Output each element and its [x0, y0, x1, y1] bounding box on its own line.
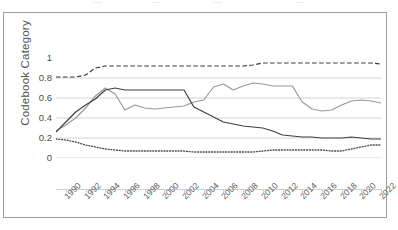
x-tick-label: 2022 [377, 180, 398, 201]
x-tick-label: 1998 [141, 180, 162, 201]
legend-swatch-1 [93, 2, 102, 3]
y-tick-label: 0.8 [32, 73, 52, 83]
y-tick-label: 0.4 [32, 113, 52, 123]
y-tick-label: 1 [32, 53, 52, 63]
legend-swatch-4 [296, 2, 305, 3]
x-tick-label: 2004 [200, 180, 221, 201]
x-tick-label: 1992 [82, 180, 103, 201]
x-tick-label: 2010 [259, 180, 280, 201]
plot-area [56, 58, 381, 158]
x-tick-label: 2012 [279, 180, 300, 201]
y-tick-label: 0.6 [32, 93, 52, 103]
y-axis-tick-labels: 10.80.60.40.20 [30, 58, 52, 158]
y-tick-label: 0.2 [32, 133, 52, 143]
series-layer [56, 63, 381, 152]
series-dotted-lower [56, 139, 381, 152]
chart-legend [0, 0, 390, 11]
chart-frame: Codebook Category 10.80.60.40.20 1990199… [3, 12, 387, 218]
x-tick-label: 2018 [338, 180, 359, 201]
x-axis-tick-labels: 1990199219941996199820002002200420062008… [56, 194, 391, 230]
legend-swatch-3 [213, 2, 222, 3]
plot-svg [56, 58, 381, 158]
series-dashed-upper [56, 63, 381, 77]
series-solid-dark [56, 88, 381, 139]
legend-swatch-2 [152, 2, 161, 3]
y-tick-label: 0 [32, 153, 52, 163]
